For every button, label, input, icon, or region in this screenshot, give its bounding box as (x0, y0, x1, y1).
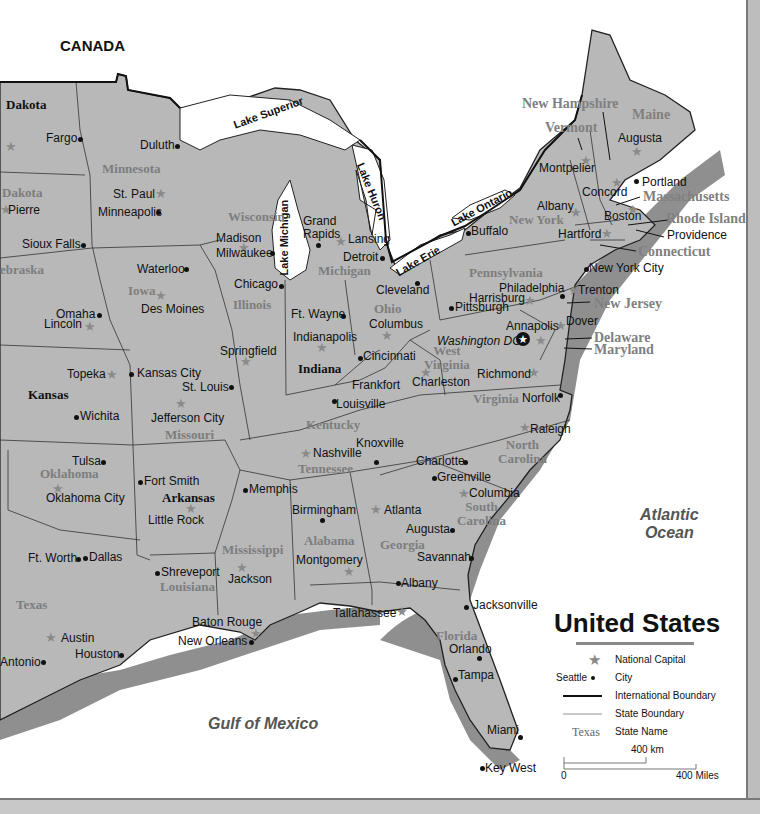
city-label-new-orleans: New Orleans (178, 635, 247, 647)
city-label-tallahassee: Tallahassee (333, 607, 396, 619)
state-label-north-dakota: Dakota (6, 98, 46, 111)
city-label-savannah: Savannah (417, 551, 471, 563)
capital-star-icon: ★ (601, 227, 613, 240)
city-label-little-rock: Little Rock (148, 514, 204, 526)
capital-star-icon: ★ (300, 447, 312, 460)
city-label-topeka: Topeka (67, 368, 106, 380)
city-dot-icon (175, 144, 180, 149)
city-label-norfolk: Norfolk (522, 392, 560, 404)
city-label-duluth: Duluth (140, 139, 175, 151)
state-label-mississippi: Mississippi (222, 543, 283, 556)
city-label-montgomery: Montgomery (296, 554, 363, 566)
capital-star-icon: ★ (175, 397, 187, 410)
capital-star-icon: ★ (524, 294, 536, 307)
city-label-columbia: Columbia (469, 487, 520, 499)
city-label-hartford: Hartford (558, 228, 601, 240)
legend-label-national-capital: National Capital (615, 655, 686, 665)
city-label-madison: Madison (216, 232, 261, 244)
state-label-missouri: Missouri (165, 428, 214, 441)
state-label-south-dakota: Dakota (2, 186, 42, 199)
capital-star-icon: ★ (370, 503, 382, 516)
city-dot-icon (249, 640, 254, 645)
state-label-oklahoma: Oklahoma (40, 467, 99, 480)
city-label-st-louis: St. Louis (182, 381, 229, 393)
city-dot-icon (320, 518, 325, 523)
state-label-new-york: New York (509, 213, 564, 226)
state-label-ohio: Ohio (374, 302, 401, 315)
city-label-knoxville: Knoxville (356, 437, 404, 449)
city-label-lansing: Lansing (348, 233, 390, 245)
state-label-tennessee: Tennessee (298, 462, 353, 475)
state-label-pennsylvania: Pennsylvania (469, 266, 543, 279)
city-label-milwaukee: Milwaukee (216, 247, 273, 259)
legend-star-icon: ★ (588, 652, 601, 667)
city-label-greenville: Greenville (437, 471, 491, 483)
state-label-wisconsin: Wisconsin (228, 210, 285, 223)
city-label-boston: Boston (604, 210, 641, 222)
state-label-indiana: Indiana (298, 362, 341, 375)
city-label-raleigh: Raleigh (530, 423, 571, 435)
state-label-iowa: Iowa (128, 284, 155, 297)
city-label-portland: Portland (642, 176, 687, 188)
city-dot-icon (634, 179, 639, 184)
city-label-shreveport: Shreveport (161, 566, 220, 578)
city-label-ft-worth: Ft. Worth (28, 552, 77, 564)
city-label-des-moines: Des Moines (141, 303, 204, 315)
map-frame-right (746, 0, 760, 800)
city-label-atlanta: Atlanta (384, 504, 421, 516)
city-label-austin: Austin (61, 632, 94, 644)
city-dot-icon (155, 571, 160, 576)
country-label-canada: CANADA (60, 38, 125, 53)
map-frame-bottom (0, 798, 760, 814)
state-label-vermont: Vermont (545, 121, 597, 135)
city-dot-icon (138, 480, 143, 485)
city-label-columbus: Columbus (369, 318, 423, 330)
state-label-minnesota: Minnesota (102, 162, 161, 175)
city-label-augusta-ga: Augusta (406, 523, 450, 535)
state-label-virginia: Virginia (473, 392, 519, 405)
city-label-buffalo: Buffalo (471, 225, 508, 237)
city-dot-icon (229, 385, 234, 390)
state-label-kansas: Kansas (28, 388, 68, 401)
legend-sample-texas: Texas (572, 726, 600, 738)
legend-city-dot-icon (591, 676, 595, 680)
city-label-charleston: Charleston (412, 376, 470, 388)
city-label-washington-dc: Washington DC (437, 335, 521, 347)
legend-label-state-name: State Name (615, 727, 668, 737)
map-legend: United States (540, 608, 730, 645)
city-label-san-antonio: Antonio (0, 656, 41, 668)
city-label-albany-ga: Albany (401, 577, 438, 589)
city-label-springfield: Springfield (220, 345, 277, 357)
legend-label-state-boundary: State Boundary (615, 709, 684, 719)
state-label-illinois: Illinois (233, 298, 271, 311)
city-label-jacksonville: Jacksonville (473, 599, 538, 611)
state-label-north-carolina: NorthCarolina (498, 438, 547, 466)
city-label-detroit: Detroit (343, 251, 378, 263)
city-dot-icon (83, 556, 88, 561)
city-label-oklahoma-city: Oklahoma City (46, 492, 125, 504)
city-dot-icon (450, 528, 455, 533)
capital-star-icon: ★ (631, 145, 643, 158)
state-label-maryland: Maryland (594, 343, 654, 357)
state-label-south-carolina: SouthCarolina (457, 500, 506, 528)
city-label-minneapolis: Minneapolis (98, 206, 162, 218)
legend-title: United States (554, 608, 730, 639)
city-label-baton-rouge: Baton Rouge (192, 616, 262, 628)
city-label-concord: Concord (582, 186, 627, 198)
city-label-chicago: Chicago (234, 278, 278, 290)
city-label-ft-wayne: Ft. Wayne (291, 308, 345, 320)
state-label-alabama: Alabama (304, 534, 355, 547)
city-label-grand-rapids: GrandRapids (303, 215, 340, 241)
city-dot-icon (41, 660, 46, 665)
city-label-cincinnati: Cincinnati (363, 350, 416, 362)
city-label-pierre: Pierre (8, 204, 40, 216)
state-label-louisiana: Louisiana (160, 580, 215, 593)
city-dot-icon (101, 460, 106, 465)
state-label-rhode-island: Rhode Island (666, 212, 746, 226)
capital-star-icon: ★ (155, 289, 167, 302)
city-label-louisville: Louisville (336, 398, 385, 410)
city-label-montpelier: Montpelier (539, 162, 595, 174)
capital-star-icon: ★ (106, 368, 118, 381)
city-dot-icon (279, 284, 284, 289)
legend-scale-zero: 0 (561, 771, 567, 781)
